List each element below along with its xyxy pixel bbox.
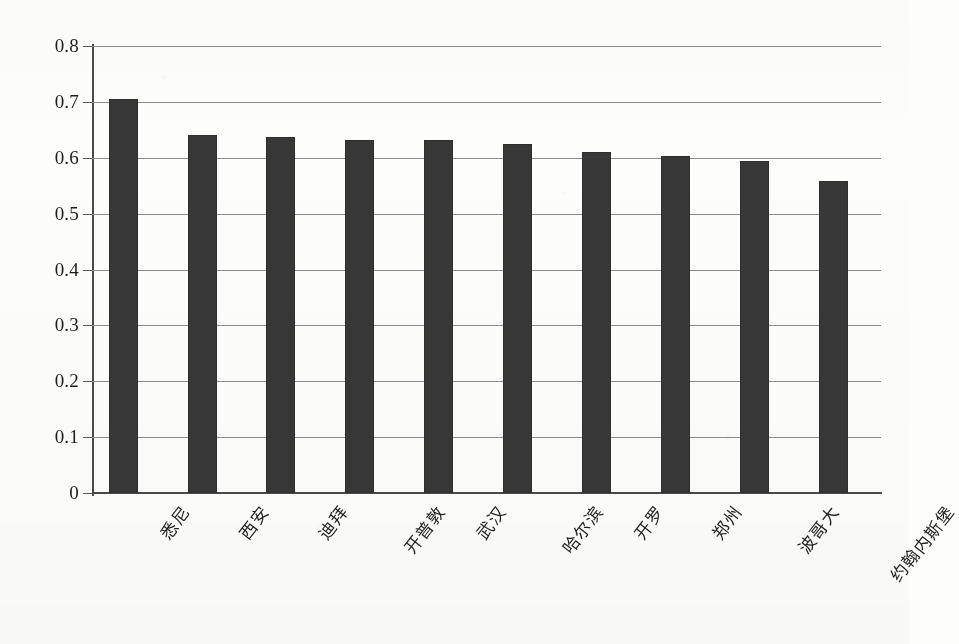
- bar: [424, 140, 453, 493]
- y-axis-tick: [83, 46, 92, 47]
- x-axis-tick-label: 开罗: [626, 500, 668, 544]
- x-axis-tick-label: 迪拜: [311, 500, 353, 544]
- y-axis-tick-label: 0.2: [55, 370, 79, 392]
- x-axis-tick-label: 约翰内斯堡: [884, 500, 959, 586]
- plot-area: 00.10.20.30.40.50.60.70.8: [92, 46, 881, 493]
- bar: [819, 181, 848, 493]
- bar: [345, 140, 374, 493]
- x-axis-tick-label: 悉尼: [153, 500, 195, 544]
- bar: [740, 161, 769, 493]
- y-axis-tick-label: 0.3: [55, 314, 79, 336]
- x-axis-tick-label: 武汉: [469, 500, 511, 544]
- x-axis-tick-label: 开普敦: [397, 500, 450, 558]
- y-axis-tick: [83, 325, 92, 326]
- y-axis-tick-label: 0.6: [55, 147, 79, 169]
- y-axis-tick: [83, 493, 92, 494]
- y-axis-tick: [83, 381, 92, 382]
- bars: [92, 46, 881, 493]
- y-axis-tick: [83, 270, 92, 271]
- y-axis-tick-label: 0.7: [55, 91, 79, 113]
- y-axis-tick: [83, 214, 92, 215]
- bar: [188, 135, 217, 493]
- bar: [582, 152, 611, 493]
- y-axis-tick-label: 0: [69, 482, 79, 504]
- y-axis-tick: [83, 158, 92, 159]
- y-axis-tick-label: 0.8: [55, 35, 79, 57]
- x-axis-tick-label: 波哥大: [791, 500, 844, 558]
- x-axis-labels: 悉尼西安迪拜开普敦武汉哈尔滨开罗郑州波哥大约翰内斯堡: [92, 500, 881, 640]
- bar: [503, 144, 532, 493]
- bar: [109, 99, 138, 493]
- y-axis-tick: [83, 437, 92, 438]
- x-axis-tick-label: 西安: [232, 500, 274, 544]
- bar: [266, 137, 295, 493]
- y-axis-tick-label: 0.4: [55, 259, 79, 281]
- y-axis-tick-label: 0.5: [55, 203, 79, 225]
- y-axis-tick: [83, 102, 92, 103]
- x-axis-tick-label: 哈尔滨: [554, 500, 607, 558]
- y-axis-tick-label: 0.1: [55, 426, 79, 448]
- bar: [661, 156, 690, 493]
- x-axis-tick-label: 郑州: [705, 500, 747, 544]
